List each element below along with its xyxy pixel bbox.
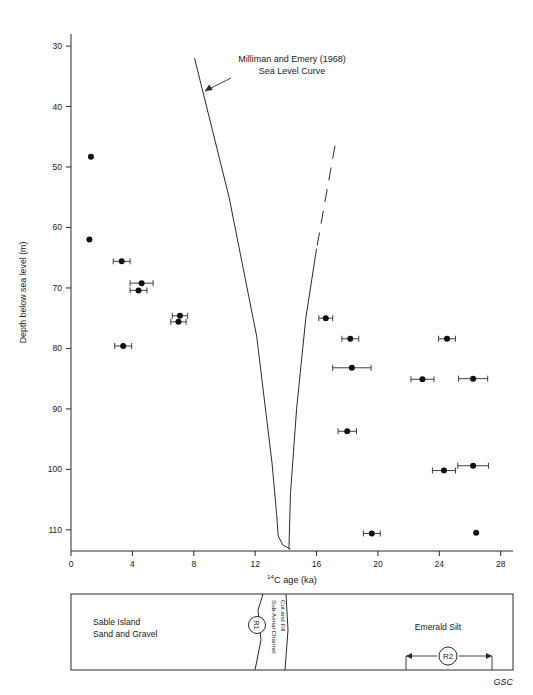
annotation-line-2: Sea Level Curve xyxy=(259,66,326,76)
curve-milliman-emery-right-branch-solid xyxy=(289,249,317,550)
data-point xyxy=(130,280,153,286)
data-point xyxy=(459,376,488,382)
y-tick-label: 80 xyxy=(53,343,63,353)
data-point-marker xyxy=(470,463,476,469)
data-point-marker xyxy=(119,258,125,264)
marker-r2-label: R2 xyxy=(443,652,454,661)
data-point xyxy=(115,343,132,349)
data-point xyxy=(338,428,356,434)
x-tick-label: 20 xyxy=(373,559,383,569)
y-axis-label: Depth below sea level (m) xyxy=(18,242,28,344)
y-tick-label: 60 xyxy=(53,222,63,232)
data-point-marker xyxy=(347,336,353,342)
strat-label-sub-aerial-line1: Sub-Aerial Channel xyxy=(271,600,278,654)
marker-r2: R2 xyxy=(406,647,492,670)
x-axis-label: 14C age (ka) xyxy=(267,573,317,585)
strat-label-emerald-silt: Emerald Silt xyxy=(415,622,462,632)
data-point-marker xyxy=(369,530,375,536)
data-point-marker xyxy=(470,376,476,382)
data-point-marker xyxy=(473,530,479,536)
marker-r2-arrowhead-left xyxy=(406,653,412,659)
curve-milliman-emery-right-branch-dashed xyxy=(317,146,335,249)
data-point-marker xyxy=(444,336,450,342)
marker-r1-label: R1 xyxy=(252,620,261,630)
data-point xyxy=(319,315,333,321)
data-point-marker xyxy=(88,154,94,160)
data-point-marker xyxy=(349,365,355,371)
data-point xyxy=(363,530,380,536)
data-point-marker xyxy=(136,287,142,293)
data-point-marker xyxy=(177,313,183,319)
y-tick-label: 100 xyxy=(48,464,62,474)
curve-milliman-emery-left-branch xyxy=(195,58,291,549)
marker-r2-arrowhead-right xyxy=(486,653,492,659)
y-tick-label: 30 xyxy=(53,41,63,51)
x-axis-label-rest: C age (ka) xyxy=(274,575,317,585)
data-point xyxy=(342,336,359,342)
data-point xyxy=(172,313,187,319)
data-point xyxy=(458,463,489,469)
data-point-marker xyxy=(323,315,329,321)
data-point xyxy=(473,530,479,536)
x-tick-label: 12 xyxy=(250,559,260,569)
data-point-marker xyxy=(139,280,145,286)
data-point xyxy=(411,376,434,382)
data-point xyxy=(88,154,94,160)
figure-root: 048121620242830405060708090100110Depth b… xyxy=(0,0,533,695)
curve-annotation: Milliman and Emery (1968)Sea Level Curve xyxy=(205,54,346,91)
data-point xyxy=(130,287,147,293)
gsc-credit: GSC xyxy=(493,677,513,687)
x-axis-label-text: 14C age (ka) xyxy=(267,573,317,585)
x-tick-label: 4 xyxy=(130,559,135,569)
annotation-line-1: Milliman and Emery (1968) xyxy=(238,54,346,64)
data-point-marker xyxy=(120,343,126,349)
x-tick-label: 0 xyxy=(69,559,74,569)
marker-r1: R1 xyxy=(249,617,266,634)
data-point-marker xyxy=(419,376,425,382)
data-point-marker xyxy=(86,237,92,243)
data-point xyxy=(432,468,455,474)
data-point-marker xyxy=(175,319,181,325)
annotation-arrow-head xyxy=(205,85,213,91)
plot-axes: 048121620242830405060708090100110Depth b… xyxy=(18,34,513,585)
x-tick-label: 24 xyxy=(435,559,445,569)
sea-level-figure: 048121620242830405060708090100110Depth b… xyxy=(0,0,533,695)
data-point-marker xyxy=(441,468,447,474)
strat-label-sable-island-line1: Sable Island xyxy=(93,617,141,627)
data-point xyxy=(113,258,130,264)
strat-label-sub-aerial-line2: Cut and Fill xyxy=(280,600,287,631)
x-tick-label: 8 xyxy=(191,559,196,569)
sea-level-curves xyxy=(195,58,335,549)
data-point xyxy=(171,319,186,325)
strat-label-sable-island-line2: Sand and Gravel xyxy=(93,629,158,639)
x-tick-label: 16 xyxy=(312,559,322,569)
x-tick-label: 28 xyxy=(496,559,506,569)
data-point xyxy=(86,237,92,243)
y-tick-label: 90 xyxy=(53,404,63,414)
y-tick-label: 70 xyxy=(53,283,63,293)
data-points xyxy=(86,154,488,537)
y-tick-label: 50 xyxy=(53,162,63,172)
data-point xyxy=(333,365,371,371)
y-tick-label: 40 xyxy=(53,102,63,112)
data-point-marker xyxy=(344,428,350,434)
data-point xyxy=(439,336,456,342)
strat-panel: Sable IslandSand and GravelEmerald SiltS… xyxy=(71,594,513,670)
y-tick-label: 110 xyxy=(48,525,62,535)
